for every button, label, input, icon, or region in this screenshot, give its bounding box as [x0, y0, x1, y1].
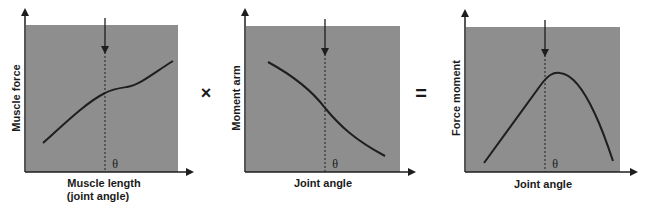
panel-muscle-force: [25, 12, 190, 172]
y-axis-label: Moment arm: [230, 65, 242, 130]
x-axis-label: Muscle length: [67, 177, 140, 189]
panel-moment-arm: [245, 12, 412, 172]
y-axis-label: Muscle force: [10, 64, 22, 131]
theta-label: θ: [552, 157, 558, 172]
theta-label: θ: [112, 157, 118, 172]
theta-label: θ: [332, 157, 338, 172]
x-axis-label: Joint angle: [294, 177, 352, 189]
multiply-sign: ×: [201, 83, 212, 104]
panel-force-moment: [465, 13, 634, 172]
x-axis-label: Joint angle: [514, 178, 572, 190]
plot-area: [466, 27, 620, 172]
plot-area: [246, 26, 400, 172]
y-axis-label: Force moment: [450, 60, 462, 136]
x-axis-label-line2: (joint angle): [67, 190, 129, 202]
plot-area: [26, 25, 178, 172]
equals-sign: =: [415, 82, 427, 105]
